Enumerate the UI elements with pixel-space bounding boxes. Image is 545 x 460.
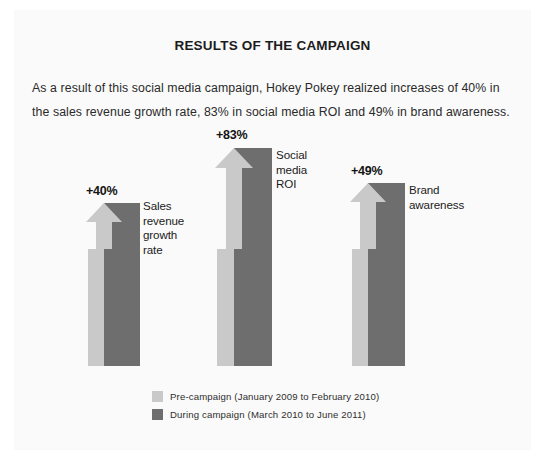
legend-swatch-pre-campaign bbox=[152, 391, 163, 402]
legend-label-during-campaign: During campaign (March 2010 to June 2011… bbox=[170, 409, 366, 420]
legend-swatch-during-campaign bbox=[152, 409, 163, 420]
legend-label-pre-campaign: Pre-campaign (January 2009 to February 2… bbox=[170, 391, 379, 402]
legend-item-pre-campaign: Pre-campaign (January 2009 to February 2… bbox=[152, 389, 379, 404]
chart-plot-area: +40% Sales revenue growth rate +83% Soci… bbox=[0, 0, 545, 460]
legend-item-during-campaign: During campaign (March 2010 to June 2011… bbox=[152, 407, 379, 422]
series-label-brand-awareness: Brand awareness bbox=[409, 183, 464, 212]
chart-legend: Pre-campaign (January 2009 to February 2… bbox=[152, 389, 379, 425]
chart-page: RESULTS OF THE CAMPAIGN As a result of t… bbox=[0, 0, 545, 460]
